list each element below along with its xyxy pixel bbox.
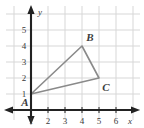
x-axis-arrow-right [131,106,140,113]
x-tick-label-4: 4 [80,116,85,126]
coordinate-plane-figure: 1 2 3 4 5 6 1 2 3 4 5 y x A B C [0,0,144,128]
x-tick-label-2: 2 [46,116,51,126]
vertex-label-a: A [20,96,28,108]
x-tick-label-3: 3 [63,116,68,126]
y-tick-label-4: 4 [22,41,27,51]
x-axis-name: x [127,116,132,126]
x-tick-label-1: 1 [29,116,34,126]
vertex-label-c: C [102,81,110,93]
x-tick-label-6: 6 [114,116,119,126]
y-axis-arrow-up [27,5,34,14]
x-axis-arrow-left [4,106,13,113]
vertex-label-b: B [85,31,93,43]
y-tick-label-3: 3 [22,57,27,67]
plot-svg: 1 2 3 4 5 6 1 2 3 4 5 y x A B C [0,0,144,128]
x-tick-label-5: 5 [97,116,102,126]
y-tick-label-2: 2 [22,73,27,83]
y-tick-label-5: 5 [22,25,27,35]
y-axis-name: y [37,7,42,17]
